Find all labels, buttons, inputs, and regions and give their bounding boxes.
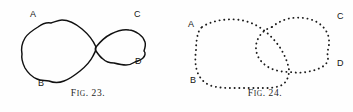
figure-24-right-blob-outline: [256, 18, 329, 73]
figure-23-caption-number: . 23.: [86, 88, 106, 98]
figure-24-left-blob-outline: [195, 19, 289, 88]
figure-24-label-b: B: [190, 76, 196, 85]
figure-23-left-blob-outline: [22, 20, 96, 83]
figure-24-drawing: [177, 0, 353, 96]
figure-23-caption: FIG. 23.: [0, 88, 176, 98]
figure-24-label-a: A: [188, 20, 194, 29]
figure-23-label-d: D: [135, 57, 142, 66]
figure-23-label-a: A: [30, 10, 36, 19]
figure-24-caption-ig: IG: [254, 89, 263, 98]
figure-24-label-c: C: [337, 12, 344, 21]
figure-plate: A B C D FIG. 23. A B C D FIG. 24.: [0, 0, 353, 112]
figure-24-label-d: D: [337, 59, 344, 68]
figure-24-caption-number: . 24.: [263, 88, 283, 98]
figure-23-drawing: [0, 0, 176, 96]
figure-24-caption: FIG. 24.: [177, 88, 353, 98]
figure-23-label-c: C: [134, 10, 141, 19]
figure-23-panel: A B C D FIG. 23.: [0, 0, 176, 112]
figure-23-label-b: B: [38, 79, 44, 88]
figure-23-caption-ig: IG: [77, 89, 86, 98]
figure-24-panel: A B C D FIG. 24.: [177, 0, 353, 112]
